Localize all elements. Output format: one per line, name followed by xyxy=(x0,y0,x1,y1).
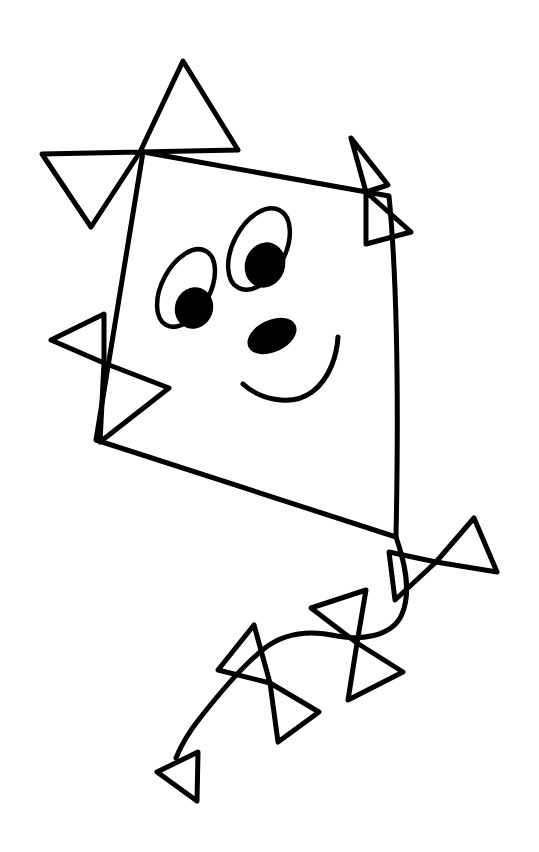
canvas-background xyxy=(0,0,539,852)
artboard xyxy=(0,0,539,852)
kite-illustration xyxy=(0,0,539,852)
